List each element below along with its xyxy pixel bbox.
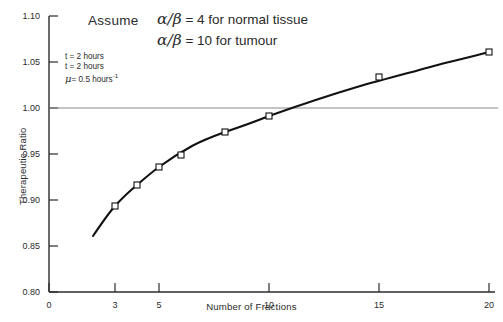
parameter-line-t1: t = 2 hours [65,52,118,62]
parameter-line-mu: μ= 0.5 hours-1 [65,71,118,84]
y-axis-title: Therapeutic Ratio [17,128,28,205]
mu-exponent: -1 [113,72,119,79]
y-tick-label: 0.85 [6,241,40,251]
assume-label: Assume [88,13,139,28]
alpha-beta-tumour-text: = 10 for tumour [185,33,277,48]
chart-figure: 1.10 1.05 1.00 0.95 0.90 0.85 0.80 0 3 5… [0,0,503,322]
therapeutic-ratio-curve [93,52,489,236]
alpha-beta-tumour-annotation: α/β = 10 for tumour [157,31,277,49]
y-tick-label: 1.00 [6,103,40,113]
alpha-beta-ratio-symbol: α/β [157,10,182,28]
x-axis-ticks [49,283,489,292]
mu-value: = 0.5 hours [72,75,113,84]
alpha-beta-ratio-symbol: α/β [157,31,182,49]
y-tick-label: 1.10 [6,11,40,21]
y-tick-label: 0.80 [6,287,40,297]
alpha-beta-normal-annotation: α/β = 4 for normal tissue [157,10,308,28]
y-tick-label: 1.05 [6,57,40,67]
data-point-markers [112,49,492,209]
alpha-beta-normal-text: = 4 for normal tissue [185,12,308,27]
parameter-annotation-block: t = 2 hours t = 2 hours μ= 0.5 hours-1 [65,52,118,85]
x-axis-title: Number of Fractions [0,301,503,312]
parameter-line-t2: t = 2 hours [65,62,118,72]
y-axis-ticks [49,16,58,292]
